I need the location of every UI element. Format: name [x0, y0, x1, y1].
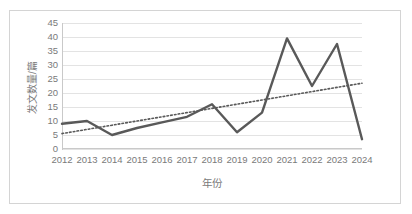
x-axis-tick-label: 2013 [76, 154, 97, 165]
chart-frame: 发文数量/篇 454035302520151050 20122013201420… [9, 10, 401, 204]
y-axis-tick-label: 20 [38, 88, 58, 98]
x-axis-title: 年份 [62, 175, 362, 190]
x-axis-tick-label: 2023 [326, 154, 347, 165]
x-axis-tick-label: 2019 [226, 154, 247, 165]
y-axis-tick-label: 45 [38, 18, 58, 28]
x-axis-tick-label: 2014 [101, 154, 122, 165]
x-axis-tick-label: 2022 [301, 154, 322, 165]
data-series-path [62, 38, 362, 139]
x-axis-tick-label: 2018 [201, 154, 222, 165]
x-axis-tick-label: 2021 [276, 154, 297, 165]
x-axis-tick-label: 2020 [251, 154, 272, 165]
y-axis-title: 发文数量/篇 [24, 11, 38, 163]
data-series [62, 23, 362, 149]
y-axis-title-label: 发文数量/篇 [24, 61, 39, 114]
y-axis-tick-label: 10 [38, 116, 58, 126]
y-axis-tick-label: 25 [38, 74, 58, 84]
x-axis-tick-label: 2012 [51, 154, 72, 165]
plot-area: 454035302520151050 201220132014201520162… [62, 23, 362, 149]
y-axis-tick-label: 5 [38, 130, 58, 140]
x-axis-tick-label: 2017 [176, 154, 197, 165]
y-axis-tick-label: 35 [38, 46, 58, 56]
x-axis-tick-label: 2016 [151, 154, 172, 165]
y-axis-tick-label: 15 [38, 102, 58, 112]
y-axis-tick-label: 0 [38, 144, 58, 154]
gridline [62, 149, 362, 150]
x-axis-tick-label: 2015 [126, 154, 147, 165]
x-axis-tick-label: 2024 [351, 154, 372, 165]
x-axis-title-label: 年份 [202, 177, 222, 189]
y-axis-tick-label: 40 [38, 32, 58, 42]
y-axis-tick-label: 30 [38, 60, 58, 70]
